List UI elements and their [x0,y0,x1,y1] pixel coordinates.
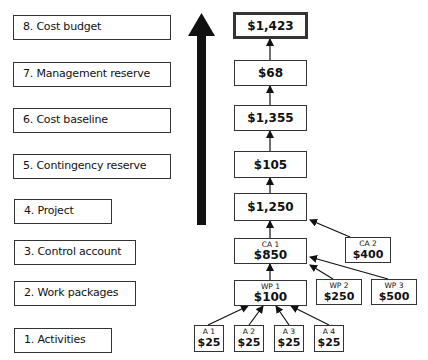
level-label: 4. Project [24,204,74,217]
activity-value: $25 [275,336,303,349]
work-package-3-box: WP 3 $500 [371,279,417,305]
level-7-management-reserve: 7. Management reserve [13,62,171,87]
work-package-name: WP 2 [317,281,361,290]
work-package-2-box: WP 2 $250 [316,279,362,305]
control-account-name: CA 2 [346,239,390,248]
work-package-value: $500 [372,290,416,303]
level-3-control-account: 3. Control account [14,240,136,265]
cost-baseline-value: $1,355 [247,111,293,125]
connector-arrows [0,0,428,360]
contingency-reserve-box: $105 [234,151,307,178]
level-label: 5. Contingency reserve [23,159,146,172]
level-4-project: 4. Project [14,199,112,224]
level-label: 3. Control account [24,245,121,258]
control-account-1-box: CA 1 $850 [234,238,307,264]
level-label: 6. Cost baseline [23,113,108,126]
activity-value: $25 [195,336,223,349]
project-value: $1,250 [247,200,293,214]
work-package-1-box: WP 1 $100 [234,280,307,306]
activity-value: $25 [315,336,343,349]
work-package-name: WP 3 [372,281,416,290]
control-account-2-box: CA 2 $400 [345,237,391,263]
work-package-value: $250 [317,290,361,303]
level-5-contingency-reserve: 5. Contingency reserve [13,154,171,179]
level-label: 2. Work packages [24,286,118,299]
level-8-cost-budget: 8. Cost budget [13,15,171,40]
activity-name: A 3 [275,327,303,336]
level-2-work-packages: 2. Work packages [14,281,136,306]
contingency-reserve-value: $105 [254,158,287,172]
big-up-arrow-icon [188,13,215,225]
cost-baseline-box: $1,355 [234,105,307,131]
activity-name: A 2 [235,327,263,336]
level-6-cost-baseline: 6. Cost baseline [13,108,171,133]
activity-3-box: A 3 $25 [274,325,304,352]
activity-1-box: A 1 $25 [194,325,224,352]
level-label: 8. Cost budget [23,20,101,33]
level-label: 7. Management reserve [23,67,150,80]
level-1-activities: 1. Activities [14,328,112,353]
work-package-value: $100 [235,291,306,304]
cost-budget-value: $1,423 [247,19,293,33]
cost-budget-box: $1,423 [233,12,308,39]
project-box: $1,250 [234,193,307,221]
activity-name: A 4 [315,327,343,336]
activity-name: A 1 [195,327,223,336]
activity-4-box: A 4 $25 [314,325,344,352]
activity-value: $25 [235,336,263,349]
management-reserve-value: $68 [258,66,283,80]
management-reserve-box: $68 [234,60,307,86]
control-account-value: $400 [346,248,390,261]
activity-2-box: A 2 $25 [234,325,264,352]
level-label: 1. Activities [24,333,86,346]
control-account-value: $850 [235,249,306,262]
